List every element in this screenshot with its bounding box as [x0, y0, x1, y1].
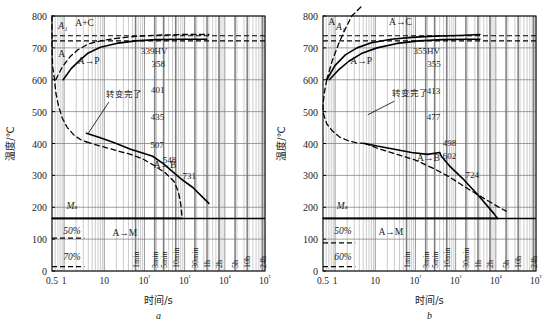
hardness-label: 507	[150, 140, 164, 150]
x-tick-label: 10⁵	[259, 274, 271, 286]
hardness-label: 435	[151, 112, 165, 122]
time-marker-label: 10min	[172, 248, 181, 268]
x-tick-label: 0.5	[46, 276, 58, 286]
region-label: A→P	[350, 56, 372, 66]
time-marker-label: 1h	[474, 260, 483, 268]
region-label: 70%	[63, 252, 81, 262]
y-tick-label: 300	[303, 170, 318, 181]
x-tick-exponent: ³	[188, 274, 190, 281]
y-tick-label: 500	[32, 107, 47, 118]
labels: 01002003004005006007008000.511010²10³10⁴…	[4, 11, 271, 321]
x-tick-label: 10³	[450, 274, 462, 286]
y-tick-label: 600	[303, 75, 318, 86]
x-tick-label: 10⁵	[530, 274, 542, 286]
hardness-label: 731	[182, 171, 196, 181]
region-label: A	[58, 49, 65, 59]
x-tick-label: 0.5	[317, 276, 329, 286]
y-tick-label: 700	[303, 43, 318, 54]
y-tick-label: 200	[303, 202, 318, 213]
x-axis-title: 时间/s	[415, 294, 444, 306]
time-marker-label: 24h	[530, 256, 539, 268]
panel-caption: b	[427, 310, 432, 321]
y-tick-label: 400	[32, 139, 47, 150]
region-label: 50%	[334, 226, 352, 236]
x-tick-exponent: ⁴	[499, 274, 502, 281]
x-tick-exponent: ⁴	[228, 274, 231, 281]
x-axis-title: 时间/s	[144, 294, 173, 306]
hardness-label: 602	[443, 151, 457, 161]
hardness-label: 498	[443, 138, 457, 148]
hardness-label: 724	[466, 170, 480, 180]
curve-a-nose-start-dashed-	[52, 16, 86, 142]
time-marker-label: 5h	[231, 260, 240, 268]
hardness-label: 477	[427, 112, 441, 122]
region-label: A→M	[378, 227, 403, 237]
y-tick-label: 500	[303, 107, 318, 118]
x-tick-label: 10³	[179, 274, 191, 286]
panel-b: 01002003004005006007008000.511010²10³10⁴…	[271, 0, 542, 325]
figure-cct-diagrams: 01002003004005006007008000.511010²10³10⁴…	[0, 0, 542, 325]
time-marker-label: 5h	[502, 260, 511, 268]
time-marker-label: 10h	[243, 256, 252, 268]
y-tick-label: 100	[32, 234, 47, 245]
y-tick-label: 300	[32, 170, 47, 181]
time-marker-label: 1min	[132, 252, 141, 268]
time-marker-label: 2h	[215, 260, 224, 268]
region-label: Mₛ	[66, 201, 78, 211]
y-axis-title: 温度/℃	[275, 126, 287, 161]
hardness-label: 355	[427, 59, 441, 69]
labels: 01002003004005006007008000.511010²10³10⁴…	[275, 11, 542, 321]
x-tick-exponent: ³	[459, 274, 461, 281]
region-label: A→M	[112, 228, 137, 238]
x-tick-label: 10⁴	[219, 274, 232, 286]
leader-transform-finish-leader	[368, 101, 395, 115]
time-marker-label: 24h	[259, 256, 268, 268]
region-label: 转变完了	[106, 89, 142, 99]
region-label: A₁	[57, 21, 67, 31]
region-label: 50%	[63, 226, 81, 236]
y-tick-label: 700	[32, 43, 47, 54]
leader-transform-finish-leader	[88, 102, 109, 133]
x-tick-label: 10	[371, 276, 381, 286]
y-tick-label: 800	[303, 11, 318, 22]
x-tick-label: 1	[333, 276, 338, 286]
region-label: A→P	[78, 56, 100, 66]
hardness-label: 413	[427, 86, 441, 96]
y-tick-label: 100	[303, 234, 318, 245]
time-marker-label: 5min	[431, 252, 440, 268]
x-tick-label: 10²	[410, 274, 422, 286]
time-marker-label: 3min	[151, 252, 160, 268]
region-label: 60%	[334, 252, 352, 262]
panel-a: 01002003004005006007008000.511010²10³10⁴…	[0, 0, 271, 325]
panel-caption: a	[156, 310, 161, 321]
time-marker-label: 5min	[160, 252, 169, 268]
region-label: A→C	[389, 17, 412, 27]
x-tick-exponent: ²	[419, 274, 421, 281]
y-tick-label: 600	[32, 75, 47, 86]
x-tick-label: 10	[100, 276, 110, 286]
hardness-label: 358	[151, 59, 165, 69]
time-marker-label: 1min	[403, 252, 412, 268]
region-label: A₁	[335, 22, 345, 32]
time-marker-label: 1h	[203, 260, 212, 268]
x-tick-label: 10²	[139, 274, 151, 286]
time-marker-label: 30min	[462, 248, 471, 268]
region-label: A	[328, 17, 335, 27]
chart-b-svg: 01002003004005006007008000.511010²10³10⁴…	[271, 0, 542, 325]
region-label: A→B	[417, 153, 440, 163]
curve-bainite-boundary-dashed-lower-	[86, 142, 182, 217]
hardness-label: 548	[163, 155, 177, 165]
time-marker-label: 30min	[191, 248, 200, 268]
time-marker-label: 3min	[422, 252, 431, 268]
hardness-label: 401	[151, 85, 165, 95]
y-tick-label: 400	[303, 139, 318, 150]
time-marker-label: 2h	[486, 260, 495, 268]
y-tick-label: 800	[32, 11, 47, 22]
x-tick-label: 10⁴	[490, 274, 503, 286]
hardness-label: 339HV	[141, 46, 168, 56]
region-label: 转变完了	[392, 88, 428, 98]
y-axis-title: 温度/℃	[4, 126, 16, 161]
time-marker-label: 10h	[514, 256, 523, 268]
time-marker-label: 10min	[443, 248, 452, 268]
region-label: Mₛ	[336, 201, 348, 211]
